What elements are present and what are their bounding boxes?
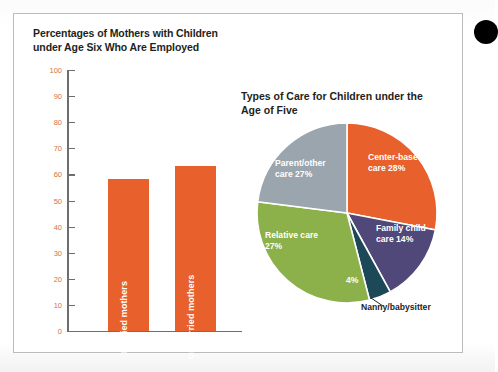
- bar-chart-plot-area: 100 90 80 70 60 50: [67, 70, 242, 332]
- pie-label-nanny-babysitter: Nanny/babysitter: [361, 302, 431, 313]
- pie-chart-plot-area: Center-basedcare 28% Parent/othercare 27…: [230, 120, 465, 320]
- bar-unmarried-mothers[interactable]: Unmarried mothers: [175, 166, 216, 330]
- y-tick-label: 80: [54, 118, 62, 127]
- pie-label-pct: 27%: [295, 169, 312, 179]
- pie-slice-center-based-care[interactable]: [347, 123, 437, 230]
- pie-label-center-based-care: Center-basedcare 28%: [368, 152, 423, 174]
- y-tick-label: 0: [58, 327, 62, 336]
- bar-label: Unmarried mothers: [186, 274, 196, 359]
- pie-svg: [230, 120, 465, 320]
- y-tick-label: 50: [54, 196, 62, 205]
- pie-label-pct: 27%: [265, 241, 282, 251]
- y-tick-label: 20: [54, 274, 62, 283]
- y-tick-label: 10: [54, 300, 62, 309]
- bar-chart: Percentages of Mothers with Children und…: [17, 13, 247, 343]
- pie-chart: Types of Care for Children under the Age…: [230, 80, 465, 355]
- pie-label-family-child-care: Family childcare 14%: [376, 223, 426, 245]
- pie-label-pct: 14%: [396, 234, 413, 244]
- y-tick-label: 90: [54, 92, 62, 101]
- y-tick-label: 60: [54, 170, 62, 179]
- y-tick-label: 30: [54, 248, 62, 257]
- bar-chart-title: Percentages of Mothers with Children und…: [33, 26, 245, 54]
- pie-label-relative-care: Relative care 27%: [265, 230, 318, 252]
- pie-chart-title: Types of Care for Children under the Age…: [241, 89, 431, 117]
- pie-label-parent-other-care: Parent/othercare 27%: [275, 158, 326, 180]
- x-axis-line: [67, 331, 242, 333]
- y-tick-label: 70: [54, 144, 62, 153]
- black-dot-marker-icon: [474, 20, 498, 44]
- pie-label-nanny-pct: 4%: [346, 275, 358, 286]
- bar-married-mothers[interactable]: Married mothers: [108, 179, 149, 330]
- y-tick-label: 40: [54, 222, 62, 231]
- pie-label-pct: 28%: [388, 163, 405, 173]
- bar-label: Married mothers: [119, 280, 129, 352]
- y-tick-label: 100: [49, 66, 62, 75]
- pie-label-text: Relative care: [265, 230, 318, 240]
